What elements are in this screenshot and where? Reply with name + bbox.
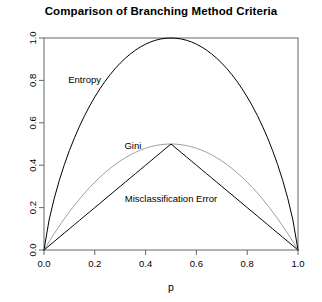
x-axis-ticks: 0.00.20.40.60.81.0: [37, 250, 304, 269]
curve-labels: EntropyGiniMisclassification Error: [68, 74, 217, 205]
plot-area: 0.00.20.40.60.81.0 0.00.20.40.60.81.0 En…: [0, 0, 322, 302]
x-tick-label: 0.0: [37, 258, 50, 269]
y-tick-label: 0.8: [27, 74, 38, 87]
y-axis-ticks: 0.00.20.40.60.81.0: [27, 31, 44, 256]
y-tick-label: 0.0: [27, 243, 38, 256]
curve-label-entropy: Entropy: [68, 74, 101, 85]
x-tick-label: 1.0: [291, 258, 304, 269]
x-axis-title: p: [168, 281, 174, 293]
y-tick-label: 0.2: [27, 201, 38, 214]
curve-label-gini: Gini: [124, 140, 141, 151]
x-tick-label: 0.6: [190, 258, 203, 269]
x-tick-label: 0.4: [139, 258, 152, 269]
y-tick-label: 0.4: [27, 159, 38, 172]
x-tick-label: 0.8: [241, 258, 254, 269]
y-tick-label: 0.6: [27, 116, 38, 129]
chart-page: Comparison of Branching Method Criteria …: [0, 0, 322, 302]
y-tick-label: 1.0: [27, 31, 38, 44]
data-curves: [44, 38, 298, 250]
curve-label-misclassification-error: Misclassification Error: [125, 193, 217, 204]
x-tick-label: 0.2: [88, 258, 101, 269]
